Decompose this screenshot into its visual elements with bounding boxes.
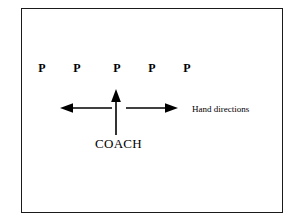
player-marker-1: P	[35, 60, 49, 76]
player-marker-2: P	[70, 60, 84, 76]
player-marker-4: P	[145, 60, 159, 76]
players-row: P P P P P	[0, 60, 297, 80]
coach-label: COACH	[0, 136, 237, 152]
arrow-up-icon	[110, 89, 122, 135]
diagram-canvas: P P P P P COACH Hand directions	[0, 0, 297, 223]
player-marker-5: P	[180, 60, 194, 76]
arrow-right-icon	[126, 103, 178, 113]
arrow-left-icon	[60, 103, 112, 113]
hand-directions-annotation: Hand directions	[192, 104, 249, 114]
player-marker-3: P	[110, 60, 124, 76]
direction-arrows-group	[0, 85, 297, 135]
